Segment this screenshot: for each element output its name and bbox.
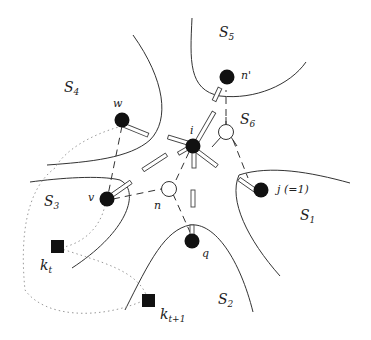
link-stub-mid [142, 153, 168, 172]
edge-n-q [173, 194, 190, 232]
node-label-q: q [202, 248, 209, 259]
node-label-w: w [113, 98, 122, 109]
diagram-canvas: S4 S5 S6 S3 S1 S2 w n' i v n j (=1) q kt… [0, 0, 371, 340]
boundary-s5 [191, 18, 306, 97]
boundary-s4 [47, 35, 162, 165]
spoke [212, 137, 221, 147]
spoke [231, 137, 237, 146]
region-label-s5: S5 [219, 25, 234, 42]
node-label-k-t: kt [40, 258, 52, 275]
node-k-t1[interactable] [142, 294, 155, 307]
node-label-i: i [190, 125, 194, 136]
node-j[interactable] [254, 183, 269, 198]
node-n-prime[interactable] [220, 70, 235, 85]
region-label-s2: S2 [218, 292, 233, 309]
node-v[interactable] [100, 192, 115, 207]
edge-n-i [176, 150, 190, 180]
node-n[interactable] [162, 182, 177, 197]
region-label-s3: S3 [44, 194, 59, 211]
region-label-s6: S6 [240, 112, 255, 129]
dotted-path-kt-kt1 [59, 248, 148, 300]
node-i[interactable] [186, 139, 201, 154]
node-label-v: v [88, 192, 94, 203]
region-label-s1: S1 [300, 208, 315, 225]
dashed-edges [108, 90, 248, 232]
node-q[interactable] [185, 234, 200, 249]
dotted-path-v-kt [59, 205, 105, 248]
link-stub-center [191, 190, 195, 207]
node-label-j: j (=1) [277, 184, 309, 195]
dotted-paths [23, 126, 148, 313]
node-k-t[interactable] [51, 240, 64, 253]
region-boundaries [30, 18, 350, 312]
node-label-n: n [154, 200, 161, 211]
node-s6[interactable] [219, 125, 234, 140]
node-w[interactable] [115, 113, 130, 128]
diagram-graphics [0, 0, 371, 340]
node-label-n-prime: n' [241, 70, 251, 81]
node-label-k-t1: kt+1 [160, 307, 185, 324]
edge-s6-j [233, 140, 248, 178]
dotted-path-w [23, 126, 145, 313]
link-stubs [107, 87, 260, 237]
edge-w-v [108, 126, 122, 195]
region-label-s4: S4 [64, 80, 79, 97]
